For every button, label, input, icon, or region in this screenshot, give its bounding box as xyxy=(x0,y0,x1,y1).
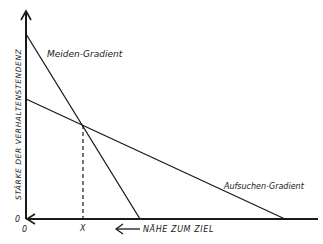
x-axis-label: NÄHE ZUM ZIEL xyxy=(143,224,214,234)
aufsuchen-gradient-line xyxy=(26,99,285,219)
aufsuchen-gradient-label: Aufsuchen-Gradient xyxy=(223,182,305,191)
y-axis-label: STÄRKE DER VERHALTENSTENDENZ xyxy=(14,48,23,200)
gradient-diagram: Meiden-Gradient Aufsuchen-Gradient 0 0 X… xyxy=(0,0,323,244)
origin-x-label: 0 xyxy=(22,225,27,234)
origin-y-label: 0 xyxy=(15,215,20,224)
meiden-gradient-label: Meiden-Gradient xyxy=(47,49,123,59)
intersection-x-label: X xyxy=(79,224,86,233)
